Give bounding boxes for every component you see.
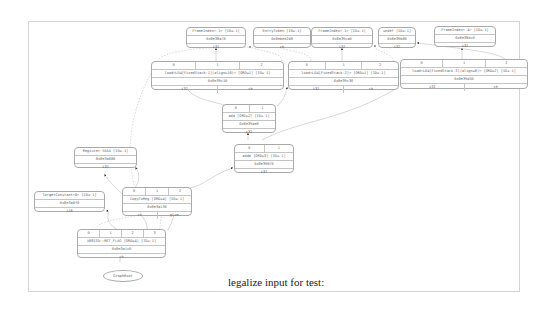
node-type: i32 [379,44,415,51]
port-1: 1 [100,230,122,237]
port-0: 0 [78,230,100,237]
port-2: 2 [169,188,191,195]
port-2: 2 [240,62,283,69]
out-0: i32 [401,84,465,91]
node-title: add [ORD=2] [ID=-1] [223,113,275,120]
port-0: 0 [235,145,265,152]
node-frameindex-c[interactable]: FrameIndex<-4> [ID=-1] 0x8e38dc0 i32 [434,26,496,47]
node-type: i32 [187,44,245,51]
node-addr: 0x8e39ae8 [223,121,275,128]
node-addr: 0x8e3a130 [123,204,191,211]
node-type: ch [78,254,165,261]
port-2: 2 [486,60,527,67]
out-1: ch [344,86,398,93]
port-0: 0 [123,188,146,195]
node-entrytoken[interactable]: EntryToken [ID=-1] 0x8ebee2d8 ch [253,27,311,48]
node-title: adde [ORD=3] [ID=-1] [235,153,293,160]
node-load-b[interactable]: 012 load<LD4[FixedStack-2]> [ORD=1] [ID=… [288,61,399,90]
graph-caption: legalize input for test: [228,276,324,288]
node-type: i32 [235,169,293,176]
node-addr: 0x8e39c30 [289,78,398,85]
port-1: 1 [326,62,363,69]
node-type: i16 [35,208,104,215]
port-1: 1 [146,188,169,195]
node-add[interactable]: 01 add [ORD=2] [ID=-1] 0x8e39ae8 i32 [222,104,276,133]
out-0: i32 [152,86,218,93]
node-addr: 0x8e39d50 [401,76,527,83]
node-frameindex-b[interactable]: FrameIndex<-1> [ID=-1] 0x8e39ca0 i32 [311,27,373,48]
node-addr: 0x8e39870 [235,161,293,168]
node-graphroot[interactable]: GraphRoot [103,270,143,282]
node-title: FrameIndex<-1> [ID=-1] [187,28,245,36]
node-adde[interactable]: 01 adde [ORD=3] [ID=-1] 0x8e39870 i32 [234,144,294,173]
node-title: X86ISD::RET_FLAG [ORD=4] [ID=-1] [78,238,165,245]
port-1: 1 [443,60,485,67]
node-targetconstant[interactable]: TargetConstant<0> [ID=-1] 0x8e3a0f0 i16 [34,191,105,212]
node-undef[interactable]: undef [ID=-1] 0x8e39b88 i32 [378,27,416,48]
node-title: Register %EAX [ID=-1] [75,148,136,155]
node-load-c[interactable]: 012 load<LD4[FixedStack-3](align=8)> [OR… [400,59,528,89]
port-0: 0 [152,62,196,69]
node-title: TargetConstant<0> [ID=-1] [35,192,104,199]
node-addr: 0x8e38a70 [187,36,245,43]
node-addr: 0x8e39b88 [379,36,415,43]
node-addr: 0x8e39ca0 [312,36,372,43]
node-type: i32 [75,164,136,171]
port-3: 3 [144,230,165,237]
node-title: undef [ID=-1] [379,28,415,35]
out-1: ch [218,86,283,93]
node-addr: 0x8e3a1c0 [78,246,165,253]
out-1: ch [465,84,528,91]
port-1: 1 [250,105,276,112]
node-ret-flag[interactable]: 0123 X86ISD::RET_FLAG [ORD=4] [ID=-1] 0x… [77,229,166,258]
node-addr: 0x8e38dc0 [435,35,495,42]
node-title: load<LD4[FixedStack-1](align=16)> [ORD=1… [152,70,283,77]
port-0: 0 [289,62,326,69]
out-0: i32 [289,86,344,93]
node-addr: 0x8e39c10 [152,78,283,85]
port-2: 2 [362,62,398,69]
port-0: 0 [223,105,250,112]
node-copytoreg[interactable]: 012 CopyToReg [ORD=4] [ID=-1] 0x8e3a130 … [122,187,192,216]
out-1: glue [158,212,192,219]
node-title: EntryToken [ID=-1] [254,28,310,35]
out-0: ch [123,212,158,219]
port-0: 0 [401,60,443,67]
port-1: 1 [196,62,240,69]
node-addr: 0x8e3a0f0 [35,200,104,207]
node-type: ch [254,44,310,51]
node-title: FrameIndex<-4> [ID=-1] [435,27,495,34]
port-1: 1 [265,145,294,152]
node-register[interactable]: Register %EAX [ID=-1] 0x8e3a080 i32 [74,147,137,168]
port-2: 2 [122,230,144,237]
node-title: CopyToReg [ORD=4] [ID=-1] [123,196,191,203]
node-type: i32 [435,43,495,50]
node-title: FrameIndex<-1> [ID=-1] [312,28,372,35]
node-addr: 0x8e3a080 [75,156,136,163]
node-type: i32 [312,44,372,51]
node-load-a[interactable]: 012 load<LD4[FixedStack-1](align=16)> [O… [151,61,284,90]
node-frameindex-a[interactable]: FrameIndex<-1> [ID=-1] 0x8e38a70 i32 [186,27,246,48]
node-type: i32 [223,129,275,136]
node-addr: 0x8ebee2d8 [254,36,310,43]
node-title: load<LD4[FixedStack-3](align=8)> [ORD=2]… [401,68,527,75]
node-title: load<LD4[FixedStack-2]> [ORD=1] [ID=-1] [289,70,398,77]
